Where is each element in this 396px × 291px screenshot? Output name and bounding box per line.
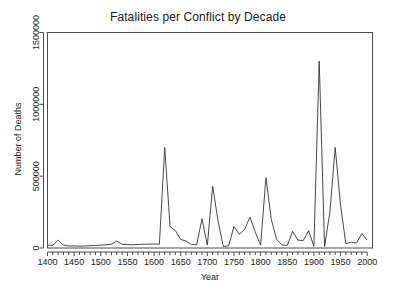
x-tick-label: 1500 [91, 257, 111, 267]
x-axis: 1400145015001550160016501700175018001850… [37, 252, 377, 267]
chart-figure: Fatalities per Conflict by Decade Number… [0, 0, 396, 291]
x-tick-label: 1400 [37, 257, 57, 267]
x-tick-label: 1850 [277, 257, 297, 267]
x-tick-label: 1450 [64, 257, 84, 267]
x-tick-label: 2000 [357, 257, 377, 267]
x-tick-label: 1800 [251, 257, 271, 267]
x-tick-label: 1550 [117, 257, 137, 267]
plot-area: 050000010000001500000 140014501500155016… [0, 0, 396, 291]
x-tick-label: 1650 [171, 257, 191, 267]
y-tick-label: 500000 [31, 161, 41, 191]
series-line [48, 61, 368, 246]
y-tick-label: 1000000 [31, 87, 41, 122]
y-axis: 050000010000001500000 [31, 15, 44, 251]
x-tick-label: 1700 [197, 257, 217, 267]
data-series-group [48, 61, 368, 246]
x-tick-label: 1750 [224, 257, 244, 267]
x-tick-label: 1900 [304, 257, 324, 267]
x-tick-label: 1600 [144, 257, 164, 267]
y-tick-label: 0 [31, 245, 41, 250]
y-tick-label: 1500000 [31, 15, 41, 50]
x-tick-label: 1950 [331, 257, 351, 267]
